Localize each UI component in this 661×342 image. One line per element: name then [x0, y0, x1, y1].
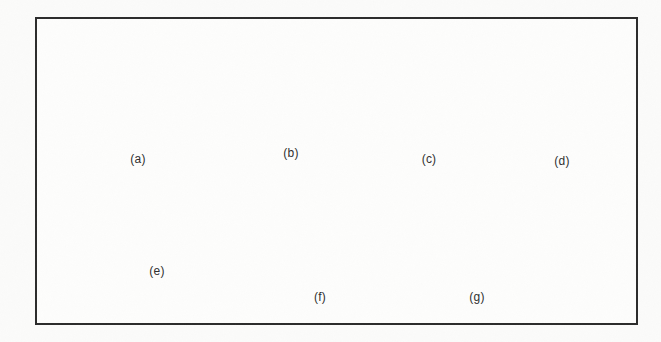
figure-frame-border [35, 17, 638, 325]
caption-cylinder: (c) [422, 152, 437, 166]
caption-cube: (a) [130, 152, 145, 166]
caption-sphere: (b) [283, 146, 298, 160]
caption-torus: (e) [149, 264, 164, 278]
caption-wedge: (f) [314, 290, 326, 304]
caption-cone: (d) [554, 154, 569, 168]
figure-root: (a) (b) (c) (d) (e) (f) (g) [0, 0, 661, 342]
caption-pyramid: (g) [469, 290, 484, 304]
